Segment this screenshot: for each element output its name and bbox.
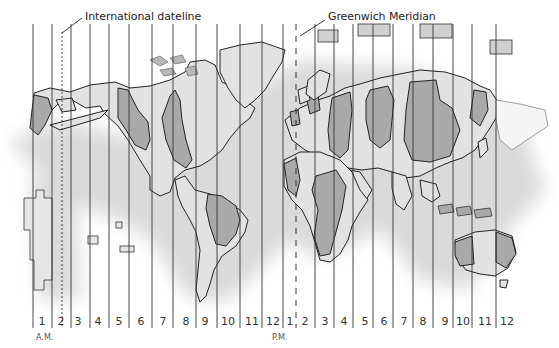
- zone-am-9: 9: [202, 315, 209, 328]
- zone-am-11: 11: [245, 315, 259, 328]
- zone-pm-2: 2: [302, 315, 309, 328]
- zone-pm-9: 9: [442, 315, 449, 328]
- am-label: A.M.: [36, 333, 53, 342]
- zone-am-8: 8: [183, 315, 190, 328]
- zone-pm-12: 12: [500, 315, 514, 328]
- zone-am-10: 10: [221, 315, 235, 328]
- zone-pm-6: 6: [381, 315, 388, 328]
- dateline-leader: [62, 18, 82, 33]
- zone-pm-5: 5: [362, 315, 369, 328]
- zone-am-7: 7: [160, 315, 167, 328]
- zone-am-5: 5: [116, 315, 123, 328]
- zone-pm-11: 11: [478, 315, 492, 328]
- zone-am-12: 12: [266, 315, 280, 328]
- world-time-zone-map: [0, 0, 559, 348]
- zone-am-6: 6: [138, 315, 145, 328]
- pm-label: P.M.: [272, 333, 288, 342]
- russian-arctic-islands: [318, 24, 512, 54]
- zone-am-2: 2: [58, 315, 65, 328]
- zone-am-3: 3: [75, 315, 82, 328]
- meridian-label: Greenwich Meridian: [328, 10, 436, 23]
- zone-pm-4: 4: [341, 315, 348, 328]
- zone-pm-7: 7: [401, 315, 408, 328]
- zone-am-1: 1: [39, 315, 46, 328]
- zone-pm-1: 1: [287, 315, 294, 328]
- dateline-label: International dateline: [85, 10, 201, 23]
- zone-pm-8: 8: [420, 315, 427, 328]
- zone-pm-10: 10: [456, 315, 470, 328]
- zone-am-4: 4: [95, 315, 102, 328]
- zone-pm-3: 3: [322, 315, 329, 328]
